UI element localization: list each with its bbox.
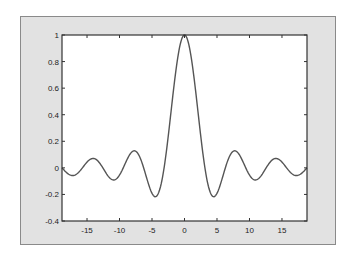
x-tick-label: -10 [114,226,126,235]
x-tick-label: -5 [148,226,156,235]
x-tick-label: -15 [81,226,93,235]
x-tick-label: 15 [278,226,287,235]
y-tick-label: 1 [55,31,60,40]
y-tick-label: 0 [55,164,60,173]
y-tick-label: 0.8 [48,58,60,67]
x-tick-label: 10 [245,226,254,235]
y-tick-label: -0.2 [45,190,59,199]
y-tick-label: 0.4 [48,111,60,120]
figure-panel: -15-10-5051015 -0.4-0.200.20.40.60.81 [20,16,336,245]
x-tick-label: 5 [215,226,220,235]
y-tick-label: 0.6 [48,84,60,93]
y-tick-label: 0.2 [48,137,60,146]
chart-svg: -15-10-5051015 -0.4-0.200.20.40.60.81 [21,17,337,246]
x-tick-label: 0 [182,226,187,235]
y-tick-label: -0.4 [45,217,59,226]
axes-background [62,35,307,221]
